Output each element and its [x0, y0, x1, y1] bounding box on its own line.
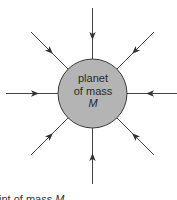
planet-label-line1: planet	[58, 72, 128, 85]
planet-label: planet of mass M	[58, 72, 128, 110]
planet-label-line2: of mass	[58, 85, 128, 98]
caption-text: int of mass	[0, 193, 55, 200]
planet-mass-symbol: M	[58, 97, 128, 110]
caption-mass-symbol: M	[55, 193, 64, 200]
caption: int of mass M	[0, 193, 64, 200]
